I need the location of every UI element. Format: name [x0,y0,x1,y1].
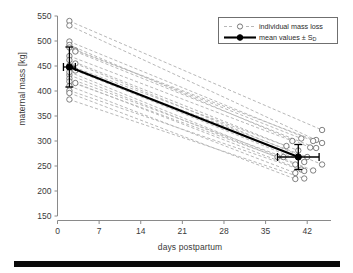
y-tick-label: 150 [37,211,51,221]
individual-mass-loss-line [75,52,316,149]
individual-data-point [293,176,298,181]
individual-data-point [310,138,315,143]
individual-mass-loss-line [75,83,301,170]
legend-label-mean: mean values ± SD [259,33,316,42]
y-tick-label: 350 [37,111,51,121]
mean-data-point [295,154,301,160]
x-tick-label: 28 [219,226,229,236]
legend-sample-solid-marker-icon [224,31,256,44]
individual-data-point [319,140,324,145]
x-tick-label: 21 [178,226,188,236]
individual-mass-loss-line [69,60,286,146]
y-tick-label: 450 [37,61,51,71]
y-tick-label: 250 [37,161,51,171]
individual-data-point [302,168,307,173]
legend-item-mean: mean values ± SD [219,31,339,44]
individual-data-point [299,136,304,141]
x-axis-ticks: 071421283542 [55,221,312,237]
individual-data-point [293,170,298,175]
mean-values-line [69,67,298,157]
x-tick-label: 35 [261,226,271,236]
x-axis-title: days postpartum [110,242,270,252]
axes: 150200250300350400450500550 071421283542 [37,11,331,236]
individual-data-point [319,127,324,132]
individual-data-point [293,162,298,167]
individual-mass-loss-line [69,48,301,139]
individual-data-point [73,80,78,85]
individual-data-point [67,90,72,95]
legend: individual mass loss mean values ± SD [218,17,338,44]
individual-data-point [73,49,78,54]
x-tick-label: 42 [302,226,312,236]
y-tick-label: 550 [37,11,51,21]
y-tick-label: 500 [37,36,51,46]
mean-data-point [66,64,72,70]
legend-label-individual: individual mass loss [259,22,323,31]
y-axis-title-text: maternal mass [kg] [17,52,27,126]
individual-data-point [302,159,307,164]
bottom-rule-bar [14,261,340,267]
individual-data-point [307,145,312,150]
individual-data-point [319,162,324,167]
figure-maternal-mass-loss: 150200250300350400450500550 071421283542… [0,0,353,273]
individual-data-point [290,138,295,143]
x-tick-label: 7 [97,226,102,236]
x-axis-title-text: days postpartum [158,242,222,252]
y-axis-ticks: 150200250300350400450500550 [37,11,57,221]
y-tick-label: 200 [37,186,51,196]
y-tick-label: 400 [37,86,51,96]
individual-data-point [302,176,307,181]
x-tick-label: 14 [136,226,146,236]
individual-data-point [313,145,318,150]
individual-data-point [310,168,315,173]
individual-data-point [284,143,289,148]
individual-mass-loss-line [75,71,304,163]
y-tick-label: 300 [37,136,51,146]
individual-data-point [67,23,72,28]
y-axis-title: maternal mass [kg] [4,52,20,172]
individual-mass-loss-line [69,100,304,179]
x-tick-label: 0 [55,226,60,236]
individual-data-point [67,97,72,102]
